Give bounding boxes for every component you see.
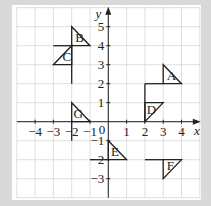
x-tick-label: 4 — [178, 124, 185, 139]
y-axis-label: y — [93, 6, 101, 21]
x-tick-label: −3 — [46, 124, 60, 139]
y-tick-label: 4 — [98, 38, 105, 53]
triangle-label: G — [74, 106, 83, 121]
y-tick-label: 2 — [98, 76, 105, 91]
x-tick-label: −4 — [28, 124, 42, 139]
triangle-label: F — [167, 158, 174, 173]
x-tick-label: 1 — [123, 124, 130, 139]
y-tick-label: −3 — [90, 171, 104, 186]
triangle-label: C — [63, 49, 72, 64]
x-axis-label: x — [193, 123, 200, 138]
coordinate-grid-diagram: ABCDEFG −4−3−2−1123454321−1−2−30xy — [0, 0, 211, 206]
triangle-label: A — [167, 68, 177, 83]
x-tick-label: 2 — [142, 124, 149, 139]
triangle-label: D — [147, 102, 156, 117]
y-tick-label: 1 — [98, 95, 105, 110]
x-tick-label: 3 — [160, 124, 167, 139]
triangle-label: E — [111, 144, 119, 159]
y-tick-label: 5 — [98, 19, 105, 34]
origin-label: 0 — [99, 122, 106, 137]
y-tick-label: −2 — [90, 152, 104, 167]
y-tick-label: 3 — [98, 57, 105, 72]
x-tick-label: −2 — [65, 124, 79, 139]
triangle-label: B — [75, 30, 84, 45]
